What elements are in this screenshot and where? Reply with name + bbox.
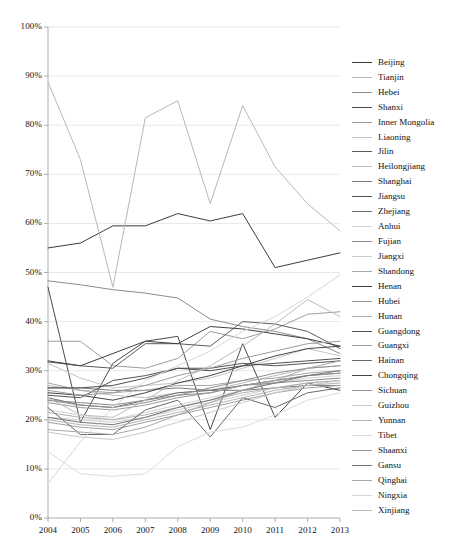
legend-item-label: Fujian — [378, 237, 401, 246]
legend-item-label: Beijing — [378, 58, 405, 67]
legend-swatch-line-icon — [352, 465, 372, 466]
y-tick-label-30: 30% — [2, 365, 42, 375]
legend-item-label: Guizhou — [378, 401, 409, 410]
gridlines — [48, 27, 340, 518]
y-tick-label-10: 10% — [2, 463, 42, 473]
legend-swatch-line-icon — [352, 286, 372, 287]
legend-item-label: Qinghai — [378, 476, 407, 485]
legend-item-yunnan[interactable]: Yunnan — [352, 413, 452, 428]
legend-swatch-line-icon — [352, 271, 372, 272]
legend-item-label: Tianjin — [378, 73, 404, 82]
legend-item-label: Gansu — [378, 461, 401, 470]
legend-item-label: Guangdong — [378, 327, 420, 336]
x-tick-label-2011: 2011 — [258, 525, 292, 535]
legend-item-label: Jiangxi — [378, 252, 404, 261]
legend-swatch-line-icon — [352, 137, 372, 138]
y-tick-label-90: 90% — [2, 70, 42, 80]
legend-item-guangdong[interactable]: Guangdong — [352, 324, 452, 339]
legend-item-fujian[interactable]: Fujian — [352, 234, 452, 249]
legend-item-tianjin[interactable]: Tianjin — [352, 70, 452, 85]
legend-item-label: Sichuan — [378, 386, 407, 395]
legend-swatch-line-icon — [352, 420, 372, 421]
legend-swatch-line-icon — [352, 301, 372, 302]
legend-item-hebei[interactable]: Hebei — [352, 85, 452, 100]
x-tick-label-2006: 2006 — [96, 525, 130, 535]
x-tick-label-2004: 2004 — [31, 525, 65, 535]
series-lines — [48, 82, 340, 484]
legend-item-label: Shanxi — [378, 103, 403, 112]
legend-item-label: Chongqing — [378, 371, 418, 380]
legend-item-beijing[interactable]: Beijing — [352, 55, 452, 70]
legend-swatch-line-icon — [352, 495, 372, 496]
legend-item-label: Henan — [378, 282, 402, 291]
x-tick-label-2008: 2008 — [161, 525, 195, 535]
x-tick-label-2009: 2009 — [193, 525, 227, 535]
y-tick-label-0: 0% — [2, 512, 42, 522]
legend-swatch-line-icon — [352, 480, 372, 481]
legend-item-gansu[interactable]: Gansu — [352, 458, 452, 473]
legend-item-heilongjiang[interactable]: Heilongjiang — [352, 159, 452, 174]
legend-item-label: Heilongjiang — [378, 162, 425, 171]
x-tick-label-2013: 2013 — [323, 525, 357, 535]
legend-swatch-line-icon — [352, 256, 372, 257]
legend-item-hubei[interactable]: Hubei — [352, 294, 452, 309]
y-tick-label-50: 50% — [2, 267, 42, 277]
legend-swatch-line-icon — [352, 166, 372, 167]
legend-swatch-line-icon — [352, 226, 372, 227]
legend-item-xinjiang[interactable]: Xinjiang — [352, 503, 452, 518]
legend-swatch-line-icon — [352, 107, 372, 108]
y-tick-label-20: 20% — [2, 414, 42, 424]
line-chart: 0%10%20%30%40%50%60%70%80%90%100% 200420… — [0, 0, 452, 559]
legend-item-hunan[interactable]: Hunan — [352, 309, 452, 324]
y-tick-label-70: 70% — [2, 168, 42, 178]
legend-item-liaoning[interactable]: Liaoning — [352, 130, 452, 145]
legend-item-chongqing[interactable]: Chongqing — [352, 368, 452, 383]
y-tick-label-80: 80% — [2, 119, 42, 129]
legend-swatch-line-icon — [352, 405, 372, 406]
y-tick-label-100: 100% — [2, 21, 42, 31]
legend-item-jiangsu[interactable]: Jiangsu — [352, 189, 452, 204]
legend-swatch-line-icon — [352, 211, 372, 212]
legend-item-sichuan[interactable]: Sichuan — [352, 383, 452, 398]
legend-swatch-line-icon — [352, 62, 372, 63]
legend-item-shanghai[interactable]: Shanghai — [352, 174, 452, 189]
legend-item-label: Shanghai — [378, 177, 412, 186]
legend-item-guizhou[interactable]: Guizhou — [352, 398, 452, 413]
y-tick-label-40: 40% — [2, 316, 42, 326]
legend-item-inner-mongolia[interactable]: Inner Mongolia — [352, 115, 452, 130]
series-line-tianjin — [48, 82, 340, 287]
legend-item-guangxi[interactable]: Guangxi — [352, 339, 452, 354]
legend-item-jilin[interactable]: Jilin — [352, 145, 452, 160]
legend-item-label: Zhejiang — [378, 207, 410, 216]
legend-swatch-line-icon — [352, 375, 372, 376]
legend-item-hainan[interactable]: Hainan — [352, 353, 452, 368]
legend-item-ningxia[interactable]: Ningxia — [352, 488, 452, 503]
legend-item-shandong[interactable]: Shandong — [352, 264, 452, 279]
legend-item-shanxi[interactable]: Shanxi — [352, 100, 452, 115]
tick-marks — [44, 27, 340, 522]
legend-swatch-line-icon — [352, 122, 372, 123]
legend-item-label: Shaanxi — [378, 446, 407, 455]
legend-item-label: Ningxia — [378, 491, 407, 500]
legend-swatch-line-icon — [352, 435, 372, 436]
legend-item-shaanxi[interactable]: Shaanxi — [352, 443, 452, 458]
legend-item-tibet[interactable]: Tibet — [352, 428, 452, 443]
legend-item-zhejiang[interactable]: Zhejiang — [352, 204, 452, 219]
legend-item-qinghai[interactable]: Qinghai — [352, 473, 452, 488]
chart-legend: BeijingTianjinHebeiShanxiInner MongoliaL… — [352, 55, 452, 518]
series-line-hebei — [48, 281, 340, 354]
x-tick-label-2007: 2007 — [128, 525, 162, 535]
legend-swatch-line-icon — [352, 241, 372, 242]
series-line-beijing — [48, 214, 340, 268]
legend-swatch-line-icon — [352, 390, 372, 391]
legend-swatch-line-icon — [352, 151, 372, 152]
legend-item-label: Tibet — [378, 431, 397, 440]
legend-item-henan[interactable]: Henan — [352, 279, 452, 294]
legend-item-label: Xinjiang — [378, 506, 410, 515]
legend-item-jiangxi[interactable]: Jiangxi — [352, 249, 452, 264]
legend-item-label: Hubei — [378, 297, 400, 306]
legend-item-label: Jiangsu — [378, 192, 405, 201]
legend-item-label: Hunan — [378, 312, 402, 321]
legend-swatch-line-icon — [352, 360, 372, 361]
legend-item-anhui[interactable]: Anhui — [352, 219, 452, 234]
